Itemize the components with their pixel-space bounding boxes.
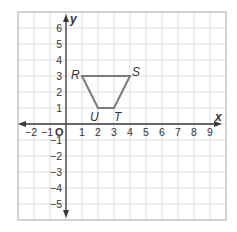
x-tick-label: 1 [79, 126, 85, 138]
y-tick-label: 3 [56, 70, 62, 82]
x-tick-label: 7 [175, 126, 181, 138]
vertex-label-r: R [71, 68, 80, 82]
y-tick-label: 4 [56, 54, 62, 66]
x-tick-label: 4 [127, 126, 133, 138]
x-tick-label: 8 [191, 126, 197, 138]
x-tick-label: 5 [143, 126, 149, 138]
vertex-label-t: T [114, 110, 123, 124]
x-tick-label: 3 [111, 126, 117, 138]
x-tick-label: 9 [207, 126, 213, 138]
vertex-label-u: U [90, 110, 99, 124]
y-tick-label: 1 [56, 102, 62, 114]
y-tick-label: 6 [56, 22, 62, 34]
y-axis-arrow-up-icon [63, 14, 69, 22]
y-axis-label: y [69, 12, 78, 26]
x-tick-label: 6 [159, 126, 165, 138]
y-tick-label: −3 [50, 166, 62, 178]
vertex-label-s: S [132, 65, 140, 79]
x-tick-label: 2 [95, 126, 101, 138]
x-tick-label: −2 [25, 126, 37, 138]
y-tick-label: −1 [50, 134, 62, 146]
y-tick-label: −4 [50, 182, 62, 194]
y-axis-arrow-down-icon [63, 210, 69, 218]
x-axis-label: x [214, 110, 223, 124]
coordinate-plane: x y O −2−1123456789−5−4−3−2−1123456 RSTU [0, 0, 237, 232]
y-tick-label: 5 [56, 38, 62, 50]
y-tick-label: 2 [56, 86, 62, 98]
y-tick-label: −5 [50, 198, 62, 210]
y-tick-label: −2 [50, 150, 62, 162]
